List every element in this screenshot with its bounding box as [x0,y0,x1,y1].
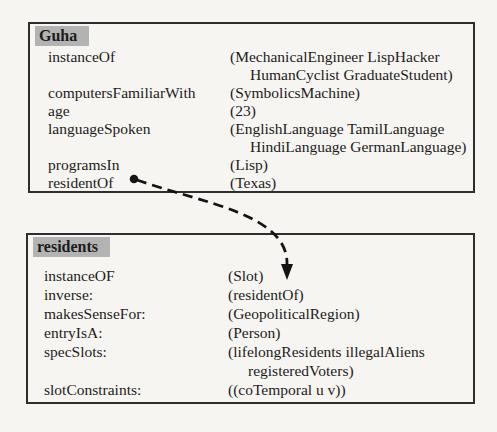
slot-value: (Person) [228,323,469,342]
slot-row-specSlots: specSlots: (lifelongResidents illegalAli… [44,342,469,380]
frame-guha-title: Guha [35,26,89,46]
slot-row-instanceOf: instanceOf (MechanicalEngineer LispHacke… [48,48,469,84]
slot-value: (residentOf) [228,285,469,304]
slot-name: inverse: [44,285,228,304]
slot-name: languageSpoken [48,120,230,138]
slot-value: ((coTemporal u v)) [228,380,469,399]
slot-name: entryIsA: [44,323,228,342]
slot-value: (GeopoliticalRegion) [228,304,469,323]
frame-residents-slots: instanceOF (Slot) inverse: (residentOf) … [28,257,473,399]
slot-name: instanceOF [44,266,228,285]
slot-row-makesSenseFor: makesSenseFor: (GeopoliticalRegion) [44,304,469,323]
slot-value: (MechanicalEngineer LispHacker HumanCycl… [230,48,469,84]
frame-residents: residents instanceOF (Slot) inverse: (re… [26,233,475,404]
slot-row-residentOf: residentOf (Texas) [48,174,469,192]
slot-value: (Lisp) [230,156,469,174]
slot-name: instanceOf [48,48,230,66]
slot-value: (Texas) [230,174,469,192]
figure-canvas: { "colors": { "page_bg": "#f7f5f1", "tex… [0,0,497,432]
frame-guha-slots: instanceOf (MechanicalEngineer LispHacke… [30,46,473,192]
slot-value: (SymbolicsMachine) [230,84,469,102]
slot-value: (23) [230,102,469,120]
slot-row-computersFamiliarWith: computersFamiliarWith (SymbolicsMachine) [48,84,469,102]
slot-name: residentOf [48,174,230,192]
slot-row-entryIsA: entryIsA: (Person) [44,323,469,342]
slot-name: age [48,102,230,120]
slot-name: slotConstraints: [44,380,228,399]
slot-name: computersFamiliarWith [48,84,230,102]
slot-name: programsIn [48,156,230,174]
slot-row-age: age (23) [48,102,469,120]
slot-row-inverse: inverse: (residentOf) [44,285,469,304]
slot-value: (EnglishLanguage TamilLanguage HindiLang… [230,120,469,156]
slot-row-instanceOF: instanceOF (Slot) [44,266,469,285]
slot-value: (lifelongResidents illegalAliens registe… [228,342,469,380]
slot-row-slotConstraints: slotConstraints: ((coTemporal u v)) [44,380,469,399]
slot-value: (Slot) [228,266,469,285]
frame-residents-title: residents [33,237,110,257]
frame-guha: Guha instanceOf (MechanicalEngineer Lisp… [28,22,475,193]
slot-row-programsIn: programsIn (Lisp) [48,156,469,174]
slot-name: specSlots: [44,342,228,361]
slot-name: makesSenseFor: [44,304,228,323]
slot-row-languageSpoken: languageSpoken (EnglishLanguage TamilLan… [48,120,469,156]
